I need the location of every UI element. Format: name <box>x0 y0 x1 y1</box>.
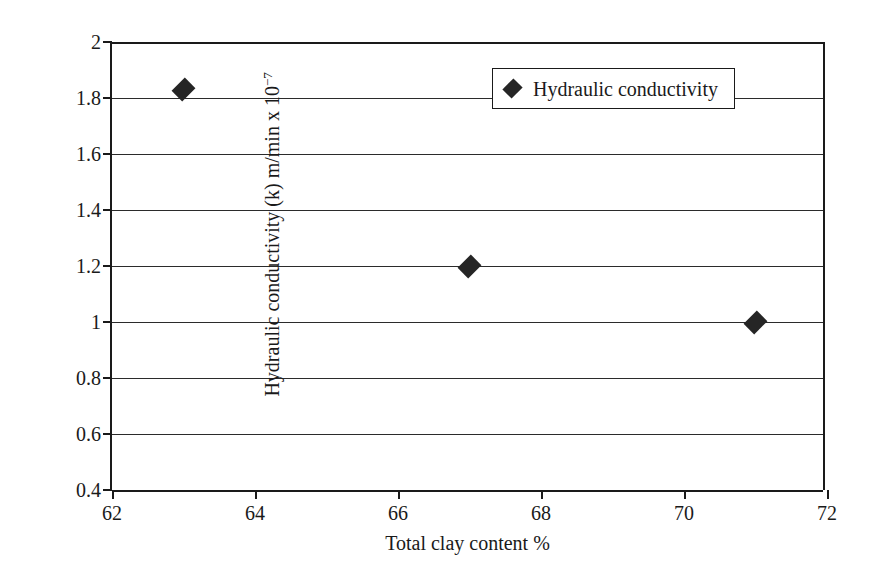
y-tick-label: 0.6 <box>76 424 112 444</box>
x-tick-label: 66 <box>388 503 408 523</box>
x-tick-label: 68 <box>531 503 551 523</box>
plot-area: 0.40.60.811.21.41.61.82626466687072 <box>110 42 825 490</box>
y-tick-label: 1.4 <box>76 200 112 220</box>
x-axis-title: Total clay content % <box>110 532 825 555</box>
data-point-marker[interactable] <box>744 310 768 334</box>
gridline-y <box>112 490 823 492</box>
x-tick-label: 70 <box>674 503 694 523</box>
y-axis-title-exponent: −7 <box>260 72 275 86</box>
y-tick-label: 0.4 <box>76 480 112 500</box>
gridline-y <box>112 210 823 211</box>
gridline-y <box>112 322 823 323</box>
gridline-y <box>112 42 823 44</box>
y-tick-label: 1.8 <box>76 88 112 108</box>
chart-legend[interactable]: Hydraulic conductivity <box>492 68 735 109</box>
x-tick-label: 72 <box>817 503 837 523</box>
x-tick-mark <box>541 490 543 499</box>
x-tick-label: 62 <box>102 503 122 523</box>
gridline-y <box>112 154 823 155</box>
y-tick-label: 2 <box>91 32 112 52</box>
gridline-y <box>112 434 823 435</box>
x-tick-mark <box>255 490 257 499</box>
data-point-marker[interactable] <box>458 254 482 278</box>
diamond-marker-icon <box>502 78 522 98</box>
y-tick-label: 1.2 <box>76 256 112 276</box>
x-tick-mark <box>112 490 114 499</box>
y-tick-label: 0.8 <box>76 368 112 388</box>
gridline-y <box>112 378 823 379</box>
y-axis-title: Hydraulic conductivity (k) m/min x 10−7 <box>260 4 285 464</box>
chart-figure: 0.40.60.811.21.41.61.82626466687072 Tota… <box>0 0 873 578</box>
y-tick-label: 1 <box>91 312 112 332</box>
y-tick-label: 1.6 <box>76 144 112 164</box>
x-tick-mark <box>398 490 400 499</box>
x-tick-label: 64 <box>245 503 265 523</box>
y-axis-title-text: Hydraulic conductivity (k) m/min x 10 <box>261 86 283 397</box>
x-tick-mark <box>827 490 829 499</box>
x-tick-mark <box>684 490 686 499</box>
legend-item-label: Hydraulic conductivity <box>533 79 718 99</box>
